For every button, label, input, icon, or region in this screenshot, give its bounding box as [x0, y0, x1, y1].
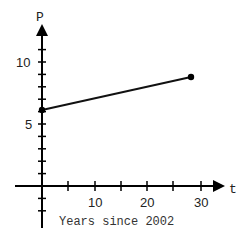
x-tick-label-30: 30: [194, 195, 208, 210]
x-axis-caption: Years since 2002: [59, 215, 174, 229]
end-point: [188, 74, 194, 80]
y-tick-label-5: 5: [25, 117, 32, 132]
x-axis-label: t: [229, 182, 237, 197]
start-point: [39, 107, 45, 113]
y-axis-label: P: [36, 10, 44, 25]
data-line: [42, 77, 191, 110]
x-tick-label-10: 10: [88, 195, 102, 210]
x-axis-arrow-icon: [213, 180, 225, 192]
x-tick-label-20: 20: [140, 195, 154, 210]
y-tick-label-10: 10: [16, 55, 30, 70]
chart: P t 10 5 10 20 30 Years since 2002: [0, 0, 247, 238]
y-axis-arrow-icon: [36, 24, 48, 36]
